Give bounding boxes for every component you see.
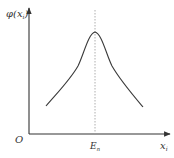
y-axis-label: φ(xi) [6,8,28,20]
peak-curve [46,32,143,107]
x-axis-label: xi [160,140,168,152]
peak-diagram: φ(xi) O En xi [0,0,174,158]
peak-label: En [89,141,101,152]
origin-label: O [15,134,23,145]
